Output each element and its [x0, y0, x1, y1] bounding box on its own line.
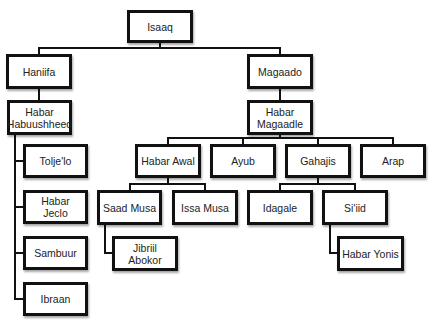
connector-si-iid-vertical [329, 224, 331, 254]
node-gahajis: Gahajis [285, 144, 351, 178]
connector-habuushheed-vertical [14, 134, 16, 300]
node-ibraan: Ibraan [23, 282, 88, 316]
node-arap: Arap [360, 144, 426, 178]
node-sambuur: Sambuur [23, 236, 88, 270]
connector-gahajis-horizontal [279, 183, 356, 185]
node-habar-magaadle: Habar Magaadle [247, 100, 313, 135]
node-magaado: Magaado [247, 54, 313, 89]
node-issa-musa: Issa Musa [172, 190, 238, 225]
node-habar-habuushheed: Habar Habuushheed [7, 100, 72, 135]
node-saad-musa: Saad Musa [97, 190, 162, 225]
node-habar-awal: Habar Awal [135, 144, 201, 178]
node-jibriil-abokor: Jibriil Abokor [112, 236, 178, 271]
node-isaaq: Isaaq [127, 10, 193, 43]
node-si-iid: Si'iid [322, 190, 388, 225]
node-habar-jeclo: Habar Jeclo [23, 190, 88, 224]
connector-magaadle-horizontal [167, 137, 393, 139]
connector-saad-musa-vertical [104, 224, 106, 254]
connector-isaaq-horizontal [38, 47, 281, 49]
node-haniifa: Haniifa [6, 54, 72, 89]
node-tolje-lo: Tolje'lo [23, 144, 88, 178]
node-ayub: Ayub [210, 144, 276, 178]
node-habar-yonis: Habar Yonis [337, 236, 404, 271]
node-idagale: Idagale [247, 190, 313, 225]
connector-habar-awal-horizontal [129, 183, 206, 185]
